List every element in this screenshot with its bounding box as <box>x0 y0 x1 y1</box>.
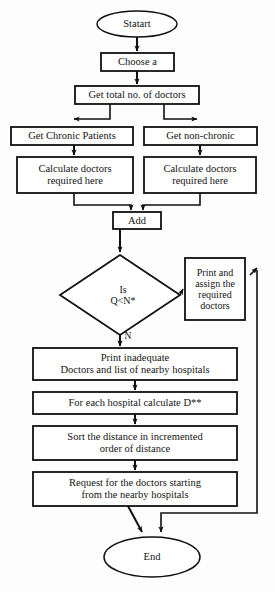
edge-calc-right-to-add <box>143 193 200 210</box>
node-get-total-shape <box>75 86 199 104</box>
node-decision-shape <box>60 255 180 335</box>
no-branch-text: N <box>125 331 132 341</box>
node-add-shape <box>113 212 161 229</box>
node-print-inadequate-shape <box>33 348 237 380</box>
edge-return-arrowhead-to-print-assign <box>250 268 257 275</box>
node-choose-shape <box>101 53 174 71</box>
node-calc-left-shape <box>17 157 133 193</box>
node-sort-shape <box>33 426 237 460</box>
node-calc-right-shape <box>144 157 256 193</box>
node-calc-d-shape <box>33 392 237 414</box>
node-end-shape <box>104 537 200 577</box>
node-request-shape <box>33 472 237 506</box>
edge-request-to-end <box>128 506 142 532</box>
node-print-assign-shape <box>185 258 245 320</box>
node-start-shape <box>97 11 177 37</box>
edge-calc-left-to-add <box>74 193 131 210</box>
flowchart-canvas: Statart Choose a Get total no. of doctor… <box>0 0 275 592</box>
flowchart-graphics <box>0 0 275 592</box>
edge-get-total-to-non-chronic <box>164 104 197 119</box>
node-non-chronic-shape <box>144 127 257 145</box>
edge-label-no-branch: N <box>120 331 136 341</box>
node-chronic-shape <box>11 127 133 145</box>
edge-get-total-to-chronic <box>74 104 110 119</box>
edge-decision-yes-to-print-assign <box>180 289 183 295</box>
